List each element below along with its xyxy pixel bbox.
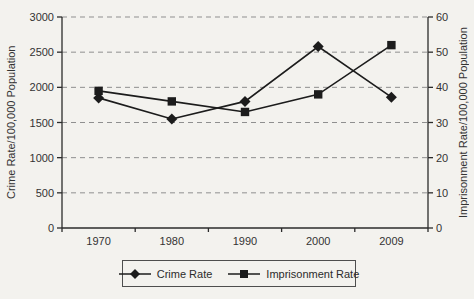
x-tick-label: 1970	[86, 235, 110, 247]
right-tick-label: 30	[436, 117, 448, 129]
right-tick-label: 10	[436, 187, 448, 199]
right-tick-label: 40	[436, 81, 448, 93]
crime-vs-imprisonment-chart: 0500100015002000250030000102030405060197…	[0, 0, 474, 299]
x-tick-label: 2009	[379, 235, 403, 247]
square-marker	[314, 90, 322, 98]
square-marker	[241, 108, 249, 116]
scanned-chart-page: 0500100015002000250030000102030405060197…	[0, 0, 474, 299]
square-marker	[94, 87, 102, 95]
legend-item-imprisonment-rate: Imprisonment Rate	[228, 268, 359, 280]
diamond-marker	[166, 113, 177, 124]
right-axis-title: Imprisonment Rate/100,000 Population	[456, 17, 470, 228]
left-tick-label: 500	[36, 187, 54, 199]
right-tick-label: 0	[436, 222, 442, 234]
x-tick-label: 1990	[233, 235, 257, 247]
right-tick-label: 50	[436, 46, 448, 58]
legend-label-crime-rate: Crime Rate	[157, 268, 213, 280]
square-marker	[387, 41, 395, 49]
left-axis-title: Crime Rate/100,000 Population	[4, 17, 18, 228]
square-marker	[168, 97, 176, 105]
legend-label-imprisonment-rate: Imprisonment Rate	[266, 268, 359, 280]
x-tick-label: 2000	[306, 235, 330, 247]
right-tick-label: 60	[436, 11, 448, 23]
legend-item-crime-rate: Crime Rate	[119, 268, 213, 280]
x-tick-label: 1980	[160, 235, 184, 247]
left-tick-label: 0	[48, 222, 54, 234]
diamond-marker	[386, 92, 397, 103]
crime-rate-diamond-icon	[119, 268, 151, 280]
left-tick-label: 2500	[30, 46, 54, 58]
legend: Crime Rate Imprisonment Rate	[122, 260, 356, 287]
left-tick-label: 1500	[30, 117, 54, 129]
right-tick-label: 20	[436, 152, 448, 164]
left-tick-label: 3000	[30, 11, 54, 23]
imprisonment-rate-square-icon	[228, 268, 260, 280]
plot-area: 0500100015002000250030000102030405060197…	[0, 0, 474, 299]
left-tick-label: 1000	[30, 152, 54, 164]
left-tick-label: 2000	[30, 81, 54, 93]
